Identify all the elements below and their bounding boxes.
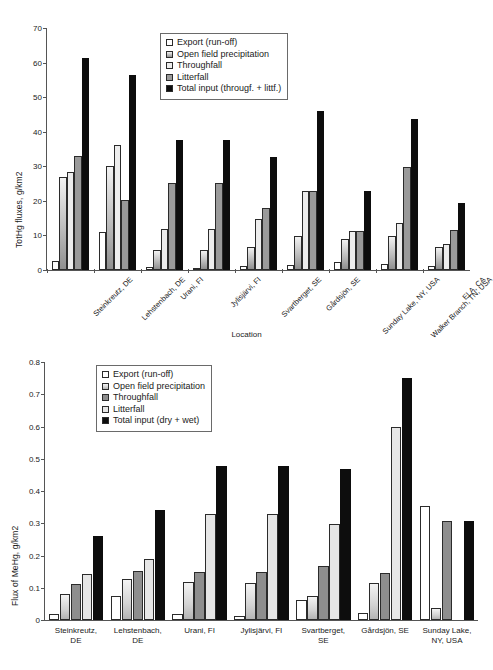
bottom-chart-bar-litterfall bbox=[391, 427, 401, 621]
top-chart-bar-export bbox=[193, 268, 201, 270]
bottom-chart-legend-item: Litterfall bbox=[102, 404, 205, 416]
top-chart-bar-total bbox=[82, 58, 90, 270]
bottom-chart-y-tick-label: 0.3 bbox=[10, 519, 40, 528]
bottom-chart-x-axis-line bbox=[44, 620, 478, 621]
bottom-chart-legend-label: Open field precipitation bbox=[113, 381, 205, 393]
bottom-chart-bar-total bbox=[278, 466, 288, 620]
bottom-chart-y-tick-label: 0.6 bbox=[10, 422, 40, 431]
bottom-chart-bar-export bbox=[420, 506, 430, 620]
top-chart-bar-throughfall bbox=[114, 145, 122, 270]
top-chart-x-axis-title: Location bbox=[0, 330, 493, 339]
bottom-chart-bar-openfield bbox=[369, 583, 379, 620]
top-chart-x-tick-label: Svartberget, SE bbox=[280, 275, 324, 319]
bottom-chart-bar-total bbox=[464, 521, 474, 620]
bottom-chart-legend-swatch-icon bbox=[102, 371, 109, 378]
top-chart-x-tick-label: Jylisjärvi, FI bbox=[229, 275, 263, 309]
top-chart-bar-openfield bbox=[59, 177, 67, 270]
top-chart-legend-item: Throughfall bbox=[166, 60, 281, 72]
bottom-chart-y-tick-mark bbox=[41, 556, 45, 557]
bottom-chart-x-tick-label: Sunday Lake, NY, USA bbox=[416, 626, 478, 646]
top-chart-x-tick-label: Steinkreutz, DE bbox=[91, 275, 134, 318]
bottom-chart-y-tick-label: 0 bbox=[10, 616, 40, 625]
bottom-chart-bar-throughfall bbox=[71, 584, 81, 620]
bottom-chart-legend-swatch-icon bbox=[102, 383, 109, 390]
bottom-chart-bar-openfield bbox=[245, 583, 255, 620]
top-chart-bar-total bbox=[458, 203, 466, 270]
top-chart-bar-throughfall bbox=[255, 219, 263, 270]
bottom-chart-legend-swatch-icon bbox=[102, 406, 109, 413]
bottom-chart-legend-label: Export (run-off) bbox=[113, 369, 173, 381]
top-chart-bar-throughfall bbox=[396, 223, 404, 270]
bottom-chart-bar-export bbox=[358, 613, 368, 620]
top-chart-x-tick-label: Lehstenbach, DE bbox=[140, 275, 187, 322]
top-chart-bar-export bbox=[334, 262, 342, 270]
bottom-chart-bar-total bbox=[340, 469, 350, 620]
bottom-chart-bar-group bbox=[292, 362, 354, 620]
top-chart-bar-group bbox=[94, 28, 141, 270]
bottom-chart-bar-throughfall bbox=[442, 521, 452, 620]
top-chart-y-tick-label: 10 bbox=[12, 231, 42, 240]
bottom-chart-y-tick-label: 0.5 bbox=[10, 454, 40, 463]
bottom-chart-bar-openfield bbox=[307, 596, 317, 620]
top-chart-y-tick-label: 20 bbox=[12, 196, 42, 205]
top-chart-x-tick-label: Gårdsjön, SE bbox=[324, 275, 362, 313]
top-chart-legend-item: Total input (througf. + littf.) bbox=[166, 83, 281, 95]
top-chart-legend-swatch-icon bbox=[166, 62, 173, 69]
bottom-chart-bar-openfield bbox=[122, 579, 132, 620]
top-chart-legend-label: Open field precipitation bbox=[177, 49, 269, 61]
bottom-chart-y-tick-label: 0.4 bbox=[10, 487, 40, 496]
bottom-chart-bar-export bbox=[111, 596, 121, 620]
top-chart-bar-total bbox=[176, 140, 184, 270]
top-chart-bar-litterfall bbox=[262, 208, 270, 270]
top-chart-legend-label: Litterfall bbox=[177, 72, 209, 84]
top-chart-bar-openfield bbox=[200, 250, 208, 270]
top-chart-bar-group bbox=[423, 28, 470, 270]
top-chart-legend-swatch-icon bbox=[166, 51, 173, 58]
bottom-chart-bar-throughfall bbox=[194, 572, 204, 620]
top-chart-bar-throughfall bbox=[161, 229, 169, 270]
top-chart-y-tick-mark bbox=[43, 166, 47, 167]
top-chart-bar-litterfall bbox=[215, 183, 223, 270]
bottom-chart-bar-total bbox=[216, 466, 226, 620]
bottom-chart-bar-openfield bbox=[183, 582, 193, 620]
bottom-chart-bar-throughfall bbox=[380, 573, 390, 620]
bottom-chart-y-tick-mark bbox=[41, 427, 45, 428]
bottom-chart-legend-label: Total input (dry + wet) bbox=[113, 415, 199, 427]
top-chart-legend-item: Export (run-off) bbox=[166, 37, 281, 49]
top-chart-bar-export bbox=[240, 266, 248, 270]
top-chart-x-tick-mark bbox=[188, 269, 189, 273]
top-chart-bar-openfield bbox=[247, 247, 255, 271]
bottom-chart-x-tick-label: Jylisjärvi, FI bbox=[231, 626, 293, 646]
bottom-chart-bar-litterfall bbox=[205, 514, 215, 620]
bottom-chart-bar-group bbox=[416, 362, 478, 620]
bottom-chart-legend-item: Throughfall bbox=[102, 392, 205, 404]
top-chart-bar-total bbox=[411, 119, 419, 270]
top-chart-x-tick-mark bbox=[329, 269, 330, 273]
top-chart-y-tick-label: 40 bbox=[12, 127, 42, 136]
top-chart-y-tick-mark bbox=[43, 97, 47, 98]
tothg-flux-chart: TotHg fluxes, g/km2 010203040506070 Stei… bbox=[0, 0, 493, 348]
top-chart-y-tick-mark bbox=[43, 28, 47, 29]
bottom-chart-bar-total bbox=[93, 536, 103, 620]
top-chart-x-tick-mark bbox=[235, 269, 236, 273]
top-chart-bar-litterfall bbox=[356, 231, 364, 270]
bottom-chart-x-tick-label: Urani, FI bbox=[169, 626, 231, 646]
top-chart-bar-throughfall bbox=[208, 229, 216, 270]
top-chart-bar-export bbox=[381, 264, 389, 270]
top-chart-bar-litterfall bbox=[309, 191, 317, 270]
top-chart-x-tick-mark bbox=[282, 269, 283, 273]
top-chart-y-tick-mark bbox=[43, 201, 47, 202]
top-chart-bar-throughfall bbox=[67, 172, 75, 270]
bottom-chart-y-tick-label: 0.8 bbox=[10, 358, 40, 367]
bottom-chart-legend-label: Throughfall bbox=[113, 392, 158, 404]
bottom-chart-y-tick-label: 0.2 bbox=[10, 551, 40, 560]
bottom-chart-legend-item: Open field precipitation bbox=[102, 381, 205, 393]
bottom-chart-y-axis-title: Flux of MeHg, g/km2 bbox=[10, 526, 20, 606]
bottom-chart-y-tick-mark bbox=[41, 394, 45, 395]
bottom-chart-x-tick-label: Svartberget, SE bbox=[292, 626, 354, 646]
bottom-chart-bar-litterfall bbox=[267, 514, 277, 620]
bottom-chart-y-tick-label: 0.1 bbox=[10, 583, 40, 592]
bottom-chart-bar-litterfall bbox=[144, 559, 154, 620]
bottom-chart-bar-group bbox=[231, 362, 293, 620]
top-chart-legend-item: Litterfall bbox=[166, 72, 281, 84]
